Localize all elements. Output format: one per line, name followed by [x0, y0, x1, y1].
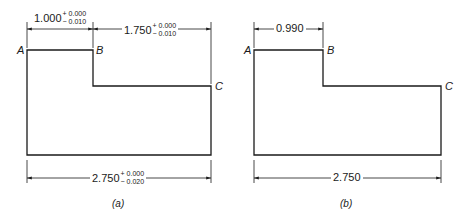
point-b-label-b: B: [327, 45, 334, 56]
drawing-canvas: [0, 0, 472, 217]
panel-a-drawing: [27, 22, 211, 183]
panel-b-drawing: [254, 22, 441, 183]
dim-bc-upper: + 0.000: [153, 22, 177, 30]
point-a-label: A: [17, 45, 24, 56]
dim-ac-value-b: 2.750: [331, 172, 363, 183]
dim-ac-upper: + 0.000: [121, 170, 145, 178]
dim-ac-tolerance: 2.750 + 0.000− 0.020: [90, 170, 146, 186]
dim-bc-tolerance: 1.750 + 0.000− 0.010: [122, 22, 178, 38]
dim-ab-tolerance: 1.000 + 0.000− 0.010: [32, 10, 88, 26]
dim-ab-nominal-b: 0.990: [276, 23, 304, 34]
dim-ac-lower: − 0.020: [121, 178, 145, 186]
dim-ab-lower: − 0.010: [63, 18, 87, 26]
panel-b-outline: [254, 50, 441, 155]
point-c-label: C: [215, 81, 223, 92]
caption-a: (a): [112, 198, 124, 209]
point-a-label-b: A: [244, 45, 251, 56]
dim-bc-nominal: 1.750: [124, 25, 152, 36]
dim-ab-value-b: 0.990: [274, 23, 306, 34]
dim-ab-nominal: 1.000: [34, 13, 62, 24]
dim-bc-lower: − 0.010: [153, 30, 177, 38]
caption-b: (b): [340, 198, 352, 209]
dim-ac-nominal-b: 2.750: [333, 172, 361, 183]
dim-ab-upper: + 0.000: [63, 10, 87, 18]
point-b-label: B: [96, 45, 103, 56]
point-c-label-b: C: [445, 81, 453, 92]
panel-a-outline: [27, 50, 211, 155]
dim-ac-nominal: 2.750: [92, 173, 120, 184]
